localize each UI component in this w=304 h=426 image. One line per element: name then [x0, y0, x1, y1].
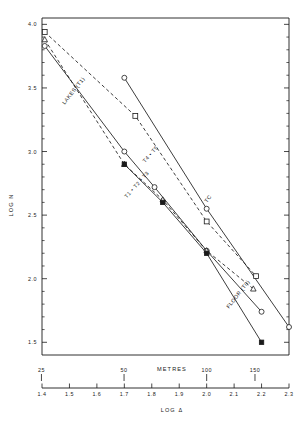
data-point-circle	[152, 185, 157, 190]
metres-tick-label: 50	[121, 367, 128, 373]
y-tick-label: 1.5	[28, 339, 37, 345]
x-tick-label: 1.4	[38, 391, 47, 397]
data-point-square	[133, 114, 138, 119]
x-tick-label: 1.5	[65, 391, 74, 397]
x-tick-label: 1.6	[92, 391, 101, 397]
scatter-line-chart: 1.52.02.53.03.54.0 1.41.51.61.71.81.92.0…	[0, 0, 304, 426]
data-point-square-filled	[122, 162, 126, 166]
y-tick-label: 3.0	[28, 149, 37, 155]
data-point-square-filled	[204, 251, 208, 255]
x-tick-label: 2.0	[202, 391, 211, 397]
y-tick-label: 4.0	[28, 21, 37, 27]
data-point-circle	[287, 325, 292, 330]
data-point-circle	[122, 75, 127, 80]
chart-background	[0, 0, 304, 426]
metres-axis-title: METRES	[157, 366, 187, 372]
x-tick-label: 1.9	[175, 391, 184, 397]
metres-tick-label: 25	[38, 367, 45, 373]
y-tick-label: 2.0	[28, 276, 37, 282]
data-point-circle	[42, 43, 47, 48]
x-axis-title: LOG Δ	[161, 407, 184, 413]
y-tick-label: 2.5	[28, 212, 37, 218]
data-point-circle	[259, 309, 264, 314]
x-tick-label: 1.7	[120, 391, 129, 397]
data-point-square	[204, 219, 209, 224]
x-tick-label: 1.8	[147, 391, 156, 397]
x-tick-label: 2.1	[230, 391, 239, 397]
data-point-square	[254, 274, 259, 279]
data-point-square-filled	[259, 340, 263, 344]
metres-tick-label: 100	[201, 367, 212, 373]
data-point-square-filled	[161, 200, 165, 204]
x-tick-label: 2.3	[285, 391, 294, 397]
y-axis-title: LOG N	[8, 194, 14, 217]
data-point-circle	[122, 149, 127, 154]
data-point-square	[42, 30, 47, 35]
y-tick-label: 3.5	[28, 85, 37, 91]
data-point-circle	[204, 206, 209, 211]
metres-tick-label: 150	[250, 367, 261, 373]
x-tick-label: 2.2	[257, 391, 266, 397]
figure-container: 1.52.02.53.03.54.0 1.41.51.61.71.81.92.0…	[0, 0, 304, 426]
